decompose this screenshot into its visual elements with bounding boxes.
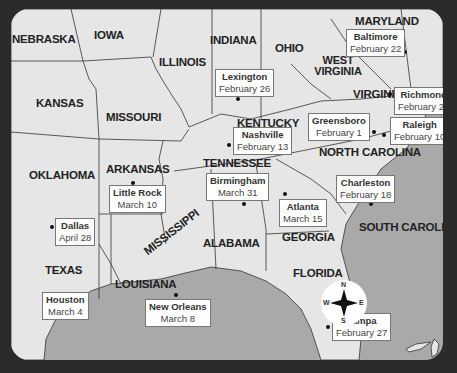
city-name: Richmond <box>398 89 443 101</box>
compass-west: W <box>323 299 330 306</box>
city-label-houston: Houston March 4 <box>42 292 89 320</box>
state-label-north-carolina: NORTH CAROLINA <box>319 146 421 158</box>
city-name: Little Rock <box>113 187 162 199</box>
city-dot-birmingham <box>242 202 246 206</box>
city-label-atlanta: Atlanta March 15 <box>279 199 327 227</box>
state-label-tennessee: TENNESSEE <box>203 157 271 169</box>
map-panel: NEBRASKA IOWA ILLINOIS INDIANA OHIO MARY… <box>11 9 443 360</box>
city-label-new-orleans: New Orleans March 8 <box>145 299 211 327</box>
city-dot-richmond <box>388 92 392 96</box>
city-name: Atlanta <box>283 201 323 213</box>
city-dot-greensboro <box>372 130 376 134</box>
state-label-florida: FLORIDA <box>293 267 343 279</box>
city-date: March 31 <box>210 187 265 199</box>
state-label-west-virginia-text: WEST VIRGINIA <box>313 55 363 77</box>
city-date: February 10 <box>394 131 443 143</box>
city-name: Greensboro <box>312 115 366 127</box>
city-date: March 8 <box>149 313 207 325</box>
state-label-indiana: INDIANA <box>210 34 257 46</box>
city-label-richmond: Richmond February 20 <box>394 87 443 115</box>
city-date: February 27 <box>336 327 387 339</box>
city-dot-raleigh <box>382 133 386 137</box>
state-label-nebraska: NEBRASKA <box>12 33 76 45</box>
city-name: Lexington <box>219 71 270 83</box>
state-label-ohio: OHIO <box>275 42 304 54</box>
city-dot-dallas <box>50 225 54 229</box>
state-label-illinois: ILLINOIS <box>159 56 206 68</box>
city-name: Baltimore <box>350 31 401 43</box>
state-label-west-virginia: WEST VIRGINIA <box>313 55 363 77</box>
state-label-louisiana: LOUISIANA <box>115 278 176 290</box>
city-label-little-rock: Little Rock March 10 <box>109 185 166 213</box>
compass-rose: N E S W <box>321 280 367 326</box>
city-date: March 4 <box>46 306 85 318</box>
compass-north: N <box>341 281 346 288</box>
city-date: February 18 <box>340 189 391 201</box>
city-label-nashville: Nashville February 13 <box>233 127 292 155</box>
state-label-arkansas: ARKANSAS <box>106 163 170 175</box>
city-label-lexington: Lexington February 26 <box>215 69 274 97</box>
state-label-south-carolina: SOUTH CAROLINA <box>359 221 443 233</box>
city-dot-new-orleans <box>174 293 178 297</box>
city-date: March 10 <box>113 199 162 211</box>
state-label-kansas: KANSAS <box>36 97 83 109</box>
city-name: Raleigh <box>394 119 443 131</box>
city-label-raleigh: Raleigh February 10 <box>390 117 443 145</box>
compass-east: E <box>359 299 364 306</box>
state-label-maryland: MARYLAND <box>355 15 419 27</box>
city-name: Charleston <box>340 177 391 189</box>
city-date: March 15 <box>283 213 323 225</box>
city-label-dallas: Dallas April 28 <box>55 218 95 246</box>
city-date: February 13 <box>237 141 288 153</box>
city-label-greensboro: Greensboro February 1 <box>308 113 370 141</box>
city-name: Dallas <box>59 220 91 232</box>
city-dot-atlanta <box>283 192 287 196</box>
city-name: Birmingham <box>210 175 265 187</box>
state-label-georgia: GEORGIA <box>282 231 335 243</box>
city-date: February 1 <box>312 127 366 139</box>
state-label-texas: TEXAS <box>45 264 82 276</box>
city-name: Houston <box>46 294 85 306</box>
city-label-birmingham: Birmingham March 31 <box>206 173 269 201</box>
state-label-alabama: ALABAMA <box>203 237 260 249</box>
city-name: Nashville <box>237 129 288 141</box>
city-date: February 22 <box>350 43 401 55</box>
city-date: February 20 <box>398 101 443 113</box>
compass-south: S <box>341 317 346 324</box>
city-date: February 26 <box>219 83 270 95</box>
city-dot-lexington <box>236 97 240 101</box>
city-date: April 28 <box>59 232 91 244</box>
state-label-iowa: IOWA <box>94 29 124 41</box>
city-label-charleston: Charleston February 18 <box>336 175 395 203</box>
city-dot-nashville <box>227 143 231 147</box>
city-label-baltimore: Baltimore February 22 <box>346 29 405 57</box>
city-name: New Orleans <box>149 301 207 313</box>
state-label-oklahoma: OKLAHOMA <box>29 169 95 181</box>
state-label-missouri: MISSOURI <box>106 111 161 123</box>
